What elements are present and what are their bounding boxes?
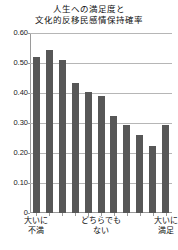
y-axis-tick-mark xyxy=(27,183,30,184)
x-axis-tick-mark xyxy=(101,213,102,216)
x-axis-label-line: どちらでも xyxy=(75,216,127,226)
y-axis-tick-label: 0.30 xyxy=(2,119,28,127)
bar-chart-figure: 人生への満足度と 文化的反移民感情保持確率 0.600.500.400.300.… xyxy=(0,0,178,250)
y-axis-tick-label: 0.40 xyxy=(2,89,28,97)
bar xyxy=(46,50,53,214)
x-axis-tick-mark xyxy=(49,213,50,216)
x-axis-tick-labels: 大いに不満どちらでもない大いに満足 xyxy=(30,216,172,246)
x-axis-tick-mark xyxy=(75,213,76,216)
x-axis-label-line: 大いに xyxy=(10,216,62,226)
x-axis-tick-mark xyxy=(153,213,154,216)
x-axis-label-line: ない xyxy=(75,226,127,236)
bar xyxy=(33,57,40,213)
x-axis-group-label-left: 大いに不満 xyxy=(10,216,62,236)
bar xyxy=(98,96,105,213)
x-axis-label-line: 満足 xyxy=(140,226,178,236)
y-axis-tick-mark xyxy=(27,63,30,64)
bar xyxy=(85,92,92,214)
y-axis-tick-mark xyxy=(27,153,30,154)
x-axis-tick-mark xyxy=(88,213,89,216)
chart-title-line-2: 文化的反移民感情保持確率 xyxy=(0,15,178,26)
x-axis-tick-mark xyxy=(114,213,115,216)
y-axis-tick-label: 0.20 xyxy=(2,149,28,157)
bar xyxy=(123,125,130,214)
y-axis-tick-label: 0.60 xyxy=(2,29,28,37)
y-axis-tick-label: 0.10 xyxy=(2,179,28,187)
y-axis-tick-mark xyxy=(27,213,30,214)
x-axis-label-line: 不満 xyxy=(10,226,62,236)
bar xyxy=(149,146,156,214)
y-axis-tick-mark xyxy=(27,123,30,124)
y-axis-tick-mark xyxy=(27,93,30,94)
x-axis-tick-mark xyxy=(62,213,63,216)
y-axis-tick-mark xyxy=(27,33,30,34)
x-axis-group-label-right: 大いに満足 xyxy=(140,216,178,236)
x-axis-tick-mark xyxy=(36,213,37,216)
x-axis-label-line: 大いに xyxy=(140,216,178,226)
y-axis-tick-label: 0.50 xyxy=(2,59,28,67)
x-axis-tick-mark xyxy=(166,213,167,216)
x-axis-tick-mark xyxy=(127,213,128,216)
x-axis-tick-mark xyxy=(140,213,141,216)
bar xyxy=(110,116,117,214)
bars-group xyxy=(30,33,172,213)
bar xyxy=(59,60,66,213)
chart-title: 人生への満足度と 文化的反移民感情保持確率 xyxy=(0,4,178,26)
x-axis-group-label-center: どちらでもない xyxy=(75,216,127,236)
bar xyxy=(72,83,79,214)
bar xyxy=(162,125,169,214)
bar xyxy=(136,135,143,213)
plot-area xyxy=(30,33,172,213)
chart-title-line-1: 人生への満足度と xyxy=(0,4,178,15)
